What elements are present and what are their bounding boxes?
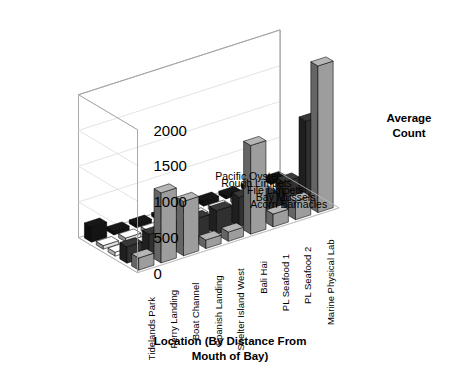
z-axis-tick-label: 0 (154, 265, 162, 282)
z-axis-tick-label: 2000 (154, 122, 187, 139)
x-axis-tick-label: Tidelands Park (146, 297, 157, 360)
z-axis-title-line2: Count (392, 127, 425, 139)
x-axis-title-line1: Location (By Distance From (154, 335, 307, 347)
chart-canvas: 0500100015002000 Marine Physical LabPL S… (0, 0, 461, 377)
x-axis-tick-label: Marine Physical Lab (325, 240, 336, 326)
x-axis-tick-label: Boat Channel (191, 283, 202, 341)
z-axis-title-line1: Average (387, 112, 432, 124)
three-d-bar-chart: 0500100015002000 Marine Physical LabPL S… (0, 0, 461, 377)
x-axis-title-line2: Mouth of Bay) (192, 350, 269, 362)
z-axis-tick-label: 500 (154, 229, 179, 246)
x-axis-tick-label: PL Seafood 2 (303, 247, 314, 304)
bar (311, 57, 333, 213)
y-axis-tick-label: Pacific Oyster (215, 170, 280, 182)
x-axis-tick-label: PL Seafood 1 (280, 254, 291, 311)
x-axis-tick-label: Bali Hai (258, 261, 269, 294)
bar (84, 218, 106, 242)
z-axis-tick-label: 1500 (154, 157, 187, 174)
z-axis-tick-label: 1000 (154, 193, 187, 210)
